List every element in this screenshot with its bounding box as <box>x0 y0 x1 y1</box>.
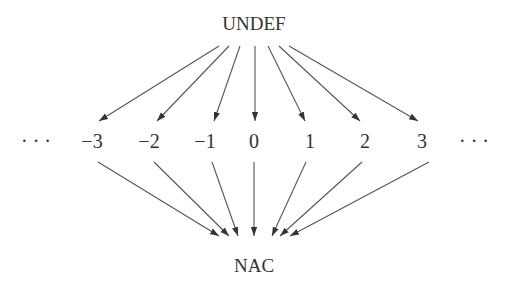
edge-neg1-nac <box>212 162 238 236</box>
edge-undef-2 <box>279 46 360 121</box>
node-1: 1 <box>305 131 315 151</box>
edge-undef-3 <box>289 46 418 121</box>
node-neg2: −2 <box>138 131 159 151</box>
node-0: 0 <box>249 131 259 151</box>
edge-3-nac <box>290 162 429 236</box>
edge-undef-neg3 <box>99 46 219 121</box>
node-neg1: −1 <box>194 131 215 151</box>
node-2: 2 <box>360 131 370 151</box>
node-3: 3 <box>417 131 427 151</box>
edge-neg2-nac <box>154 162 229 236</box>
node-neg3: −3 <box>81 131 102 151</box>
undef-node: UNDEF <box>222 14 285 33</box>
left-ellipsis: · · · <box>21 131 51 151</box>
edge-1-nac <box>272 162 306 236</box>
nac-node: NAC <box>234 256 274 275</box>
right-ellipsis: · · · <box>459 131 489 151</box>
edge-undef-1 <box>268 46 305 121</box>
edge-neg3-nac <box>98 162 219 236</box>
edge-2-nac <box>280 162 362 236</box>
